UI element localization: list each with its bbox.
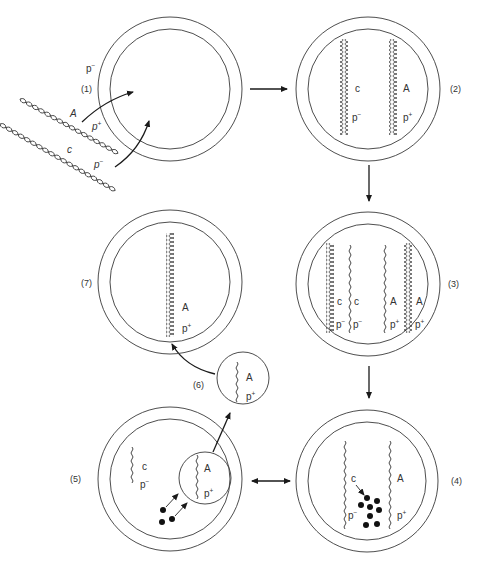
step-7-marker-p-plus: p+	[182, 322, 192, 334]
step-1-cell-genotype: p−	[86, 62, 96, 74]
step-6-vesicle	[217, 352, 269, 404]
flow-arrow-5-to-6	[213, 413, 230, 452]
cell-outer-membrane	[296, 212, 440, 356]
double-strand-dna-A	[389, 39, 397, 135]
step-3-label: (3)	[448, 279, 459, 289]
incoming-marker-p-plus: p+	[91, 120, 102, 132]
double-strand-dna-A-integrated	[166, 233, 174, 337]
step-4-label: (4)	[451, 476, 462, 486]
step-6-gene-A: A	[246, 372, 253, 383]
step-7-gene-A: A	[182, 302, 189, 313]
step-2-label: (2)	[450, 84, 461, 94]
single-strand-dna-c	[349, 245, 351, 333]
degraded-nucleotides	[358, 495, 382, 528]
cell-outer-membrane	[98, 17, 242, 161]
step-4-gene-A: A	[397, 473, 404, 484]
step-2-cell	[296, 17, 440, 161]
step-3-gene-A-2: A	[416, 296, 423, 307]
cell-inner-membrane	[110, 29, 230, 149]
step-3-gene-A-1: A	[390, 296, 397, 307]
step-5-gene-c: c	[142, 461, 147, 472]
transformation-diagram: (1) p− A p+ c p− c p− A p+ (2) c c	[0, 0, 483, 565]
step-7-cell	[98, 210, 242, 354]
step-5-marker-p-minus: p−	[140, 478, 150, 490]
incoming-gene-A-label: A	[69, 108, 77, 119]
step-3-cell	[296, 212, 440, 356]
step-5-label: (5)	[70, 474, 81, 484]
diagram-canvas: (1) p− A p+ c p− c p− A p+ (2) c c	[0, 0, 483, 565]
step-4-marker-p-plus: p+	[397, 509, 407, 521]
step-3-gene-c-2: c	[354, 296, 359, 307]
single-strand-dna-A	[236, 362, 238, 402]
step-2-gene-A: A	[403, 83, 410, 94]
double-strand-dna-A	[404, 243, 412, 333]
double-strand-dna-c	[326, 243, 334, 333]
step-3-gene-c-1: c	[337, 296, 342, 307]
step-1-cell	[98, 17, 242, 161]
cell-outer-membrane	[98, 407, 242, 551]
flow-arrow-6-to-7	[172, 344, 215, 374]
step-6-marker-p-plus: p+	[246, 390, 256, 402]
cell-inner-membrane	[308, 29, 428, 149]
single-strand-dna-A	[389, 441, 391, 529]
step-2-gene-c: c	[355, 83, 360, 94]
step-5-marker-p-plus: p+	[204, 487, 214, 499]
step-1-label: (1)	[81, 84, 92, 94]
step-3-marker-p-plus-1: p+	[390, 318, 400, 330]
step-3-marker-p-plus-2: p+	[415, 318, 425, 330]
step-2-marker-p-plus: p+	[403, 111, 413, 123]
double-strand-dna-c	[340, 39, 348, 135]
step-7-label: (7)	[81, 278, 92, 288]
step-3-marker-p-minus-2: p−	[353, 318, 363, 330]
step-4-marker-p-minus: p−	[348, 509, 358, 521]
nucleotide-import-arrow-1	[166, 494, 178, 507]
single-strand-dna-A	[196, 455, 198, 499]
incoming-marker-p-minus: p−	[93, 158, 104, 170]
degradation-arrow	[356, 485, 364, 495]
step-6-label: (6)	[193, 380, 204, 390]
step-4-cell	[296, 410, 438, 552]
uptake-arrow-c	[115, 121, 149, 167]
incoming-gene-c-label: c	[67, 144, 72, 155]
step-2-marker-p-minus: p−	[352, 111, 362, 123]
nucleotide-import-arrow-2	[175, 503, 187, 516]
step-4-gene-c: c	[351, 473, 356, 484]
single-strand-dna-c	[131, 447, 133, 483]
step-5-cell	[98, 407, 242, 551]
cell-outer-membrane	[296, 410, 438, 552]
uptake-arrow-A	[82, 92, 133, 122]
single-strand-dna-c	[344, 441, 346, 529]
single-strand-dna-A	[384, 245, 386, 333]
step-3-marker-p-minus-1: p−	[336, 318, 346, 330]
step-5-gene-A: A	[204, 463, 211, 474]
vesicle-membrane	[217, 352, 269, 404]
cell-outer-membrane	[296, 17, 440, 161]
